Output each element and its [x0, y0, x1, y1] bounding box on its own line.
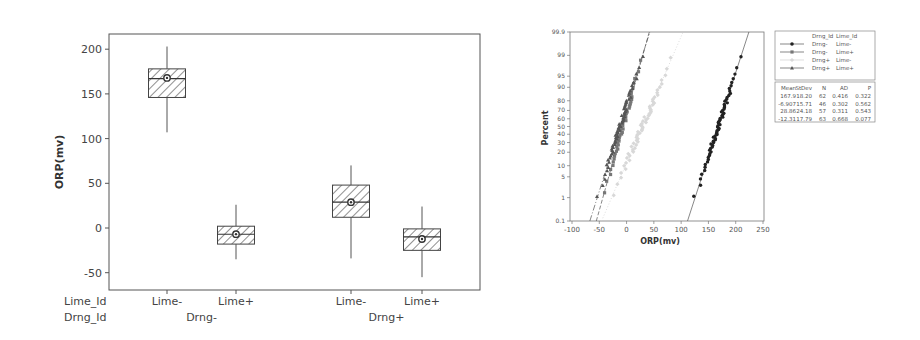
point [725, 98, 728, 101]
point [640, 128, 644, 132]
fit-lines [590, 32, 749, 221]
point [704, 163, 707, 166]
point [660, 82, 664, 86]
point [718, 119, 721, 122]
box-1 [149, 47, 186, 133]
point [709, 150, 712, 153]
point [620, 126, 623, 129]
point [641, 55, 645, 59]
stats-cell: 18.20 [796, 93, 812, 99]
lime-id-factor-label: Lime_Id [64, 295, 106, 308]
point [716, 124, 719, 127]
y-tick-label: 80 [557, 97, 565, 104]
point [631, 150, 635, 154]
point [699, 184, 702, 187]
point [715, 130, 718, 133]
point [625, 112, 628, 115]
point [715, 132, 718, 135]
point [730, 81, 733, 84]
stats-cell: 0.416 [832, 93, 848, 99]
x-tick-label: 100 [674, 226, 687, 234]
point [630, 98, 633, 101]
point [722, 111, 725, 114]
x-tick-label: -100 [564, 226, 580, 234]
circle-marker-icon [790, 42, 794, 46]
x-tick-label: 250 [756, 226, 769, 234]
point [700, 173, 703, 176]
point [613, 142, 617, 146]
point [652, 95, 656, 99]
point [642, 115, 646, 119]
point [610, 147, 614, 151]
point [658, 85, 662, 89]
point [635, 77, 639, 81]
legend-drng-value: Drng+ [812, 65, 830, 72]
box-plot-y-axis: 200150100500-50 [81, 43, 109, 280]
point [646, 116, 650, 120]
point [603, 177, 607, 181]
point [605, 163, 609, 167]
point [723, 106, 726, 109]
legend-lime-value: Lime- [836, 41, 851, 47]
point [624, 99, 628, 103]
point [610, 149, 614, 153]
point [603, 191, 606, 194]
point [717, 127, 720, 130]
point [714, 138, 717, 141]
point [634, 72, 638, 76]
point [630, 89, 633, 92]
y-tick-label: 20 [557, 148, 565, 155]
point [619, 171, 623, 175]
point [630, 95, 633, 98]
x-tick-label: 150 [702, 226, 715, 234]
point [717, 122, 720, 125]
y-tick-label: -50 [84, 267, 102, 280]
stats-cell: 0.302 [832, 101, 848, 107]
y-tick-label: 0.1 [555, 217, 565, 224]
point [665, 67, 669, 71]
point [605, 180, 608, 183]
point [629, 102, 632, 105]
y-tick-label: 40 [557, 130, 565, 137]
point [644, 118, 648, 122]
point [624, 100, 628, 104]
point [618, 123, 622, 127]
point [627, 97, 631, 101]
point [610, 152, 614, 156]
mean-dot [350, 201, 352, 203]
point [640, 124, 644, 128]
point [631, 141, 635, 145]
fit-line [602, 32, 684, 221]
point [623, 114, 626, 117]
y-tick-label: 1 [561, 194, 565, 201]
point [615, 145, 618, 148]
point [613, 155, 616, 158]
point [611, 145, 615, 149]
point [636, 137, 640, 141]
point [635, 134, 639, 138]
point [707, 156, 710, 159]
point [621, 118, 625, 122]
data-points [595, 55, 743, 199]
legend-header-drng: Drng_Id [812, 33, 833, 40]
drng-id-factor-label: Drng_Id [64, 311, 106, 324]
stats-cell: 167.9 [780, 93, 796, 99]
point [619, 176, 623, 180]
point [617, 139, 620, 142]
point [651, 97, 655, 101]
point [618, 134, 621, 137]
point [718, 117, 721, 120]
y-tick-label: 95 [557, 72, 565, 79]
point [613, 140, 617, 144]
y-tick-label: 200 [81, 43, 102, 56]
point [623, 115, 627, 119]
point [628, 154, 632, 158]
probability-plot-x-title: ORP(mv) [640, 237, 680, 246]
point [669, 56, 673, 60]
point [711, 145, 714, 148]
point [615, 137, 619, 141]
point [703, 169, 706, 172]
stats-cell: 0.077 [855, 116, 871, 122]
point [606, 166, 610, 170]
stats-cell: 17.79 [796, 116, 812, 122]
